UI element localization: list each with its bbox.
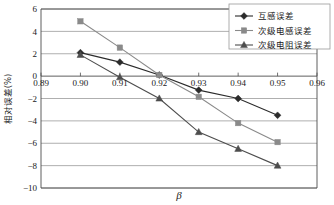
y-tick-label: −4 [27,116,37,126]
legend-marker-square-icon [241,28,246,33]
y-tick-label: −10 [23,183,38,193]
x-tick-label: 0.96 [309,78,325,88]
data-point [196,94,201,99]
y-tick-label: 4 [33,27,38,37]
x-tick-label: 0.93 [191,78,207,88]
x-axis-title: β [175,189,182,201]
y-axis-title: 相对误差(%) [3,74,13,125]
x-tick-label: 0.94 [230,78,246,88]
y-tick-label: 0 [33,71,38,81]
chart-container: 0.890.900.910.920.930.940.950.96 6420−2−… [0,0,334,205]
relative-error-line-chart: 0.890.900.910.920.930.940.950.96 6420−2−… [0,0,334,205]
chart-legend: 互感误差次级电感误差次级电阻误差 [229,4,330,50]
data-point [275,139,280,144]
y-tick-label: −2 [27,94,37,104]
legend-label: 次级电感误差 [258,26,312,36]
legend-label: 互感误差 [258,11,294,21]
legend-label: 次级电阻误差 [258,40,312,50]
y-tick-label: 6 [33,4,38,14]
data-point [235,120,240,125]
data-point [78,19,83,24]
y-tick-label: −6 [27,138,37,148]
y-tick-label: −8 [27,161,37,171]
data-point [117,45,122,50]
x-tick-label: 0.95 [270,78,286,88]
y-tick-label: 2 [33,49,38,59]
x-tick-label: 0.91 [112,78,128,88]
x-tick-label: 0.92 [151,78,167,88]
x-tick-label: 0.90 [73,78,89,88]
